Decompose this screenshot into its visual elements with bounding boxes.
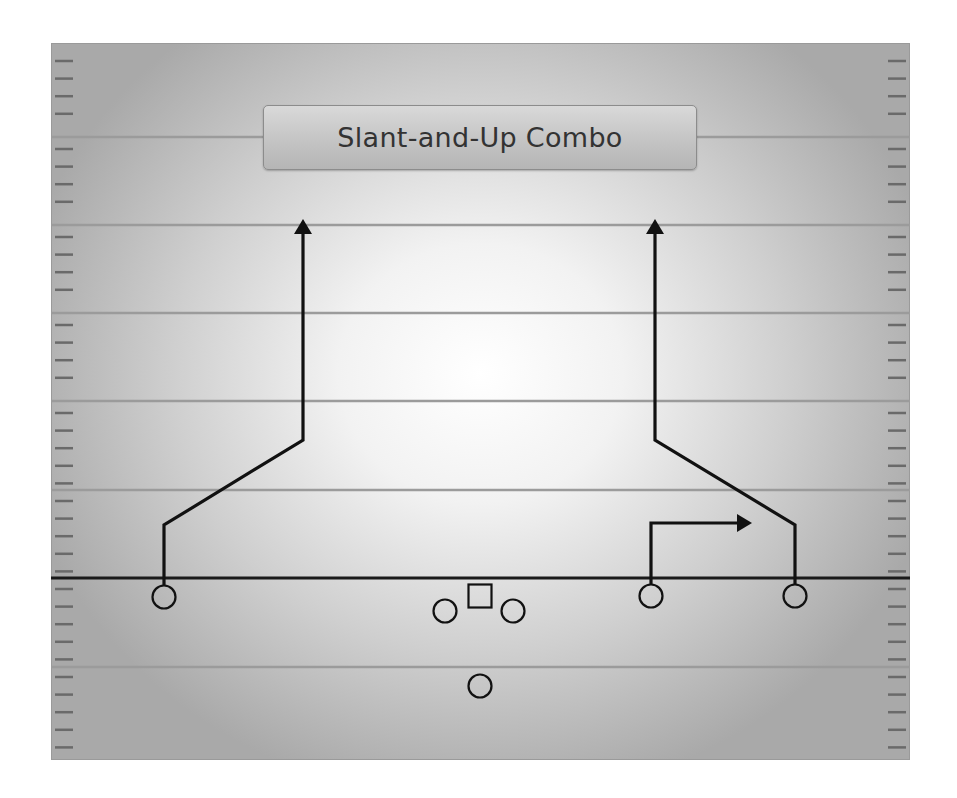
arrowhead-icon [294, 219, 312, 234]
route-slot-out [651, 514, 752, 584]
player-left-guard [434, 600, 457, 623]
yard-lines [51, 137, 910, 667]
play-title: Slant-and-Up Combo [337, 122, 622, 153]
player-right-wide-receiver [784, 585, 807, 608]
player-left-wide-receiver [153, 586, 176, 609]
players [153, 585, 807, 698]
player-quarterback [469, 675, 492, 698]
player-slot-receiver [640, 585, 663, 608]
arrowhead-icon [737, 514, 752, 532]
arrowhead-icon [646, 219, 664, 234]
play-title-box: Slant-and-Up Combo [263, 105, 697, 170]
player-center [469, 585, 492, 608]
player-right-guard [502, 600, 525, 623]
